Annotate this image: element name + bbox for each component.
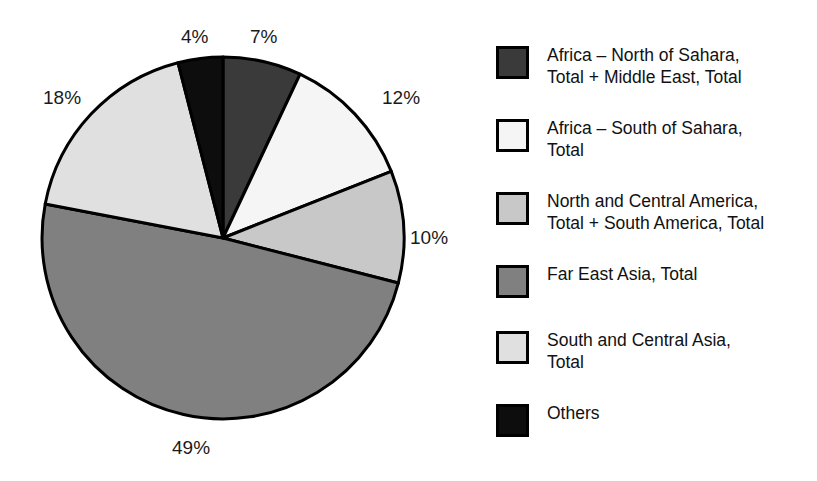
legend-item[interactable]: Africa – North of Sahara, Total + Middle… xyxy=(496,44,742,89)
legend-color-swatch xyxy=(496,265,529,298)
pie-percentage-label: 10% xyxy=(410,228,448,247)
pie-percentage-label: 49% xyxy=(172,438,210,457)
pie-percentage-label: 4% xyxy=(181,27,208,46)
pie-chart-plot-area: 7%12%10%49%18%4% xyxy=(0,0,460,481)
legend-item[interactable]: Africa – South of Sahara, Total xyxy=(496,117,743,162)
legend-item-label: Far East Asia, Total xyxy=(547,263,697,285)
legend-item[interactable]: Others xyxy=(496,402,600,437)
legend-item[interactable]: South and Central Asia, Total xyxy=(496,329,731,374)
legend-item-label: Africa – South of Sahara, Total xyxy=(547,117,743,162)
legend-item-label: Others xyxy=(547,402,600,424)
pie-chart-figure: 7%12%10%49%18%4% Africa – North of Sahar… xyxy=(0,0,817,481)
legend-color-swatch xyxy=(496,119,529,152)
legend-item[interactable]: North and Central America, Total + South… xyxy=(496,190,764,235)
pie-percentage-label: 12% xyxy=(382,88,420,107)
pie-percentage-label: 18% xyxy=(43,88,81,107)
legend-item[interactable]: Far East Asia, Total xyxy=(496,263,697,298)
legend-item-label: Africa – North of Sahara, Total + Middle… xyxy=(547,44,742,89)
legend-color-swatch xyxy=(496,192,529,225)
legend-item-label: North and Central America, Total + South… xyxy=(547,190,764,235)
pie-slice-group xyxy=(42,57,404,419)
legend-color-swatch xyxy=(496,404,529,437)
pie-percentage-label: 7% xyxy=(250,27,277,46)
legend-item-label: South and Central Asia, Total xyxy=(547,329,731,374)
pie-chart-svg xyxy=(0,0,460,481)
legend-color-swatch xyxy=(496,46,529,79)
legend-color-swatch xyxy=(496,331,529,364)
